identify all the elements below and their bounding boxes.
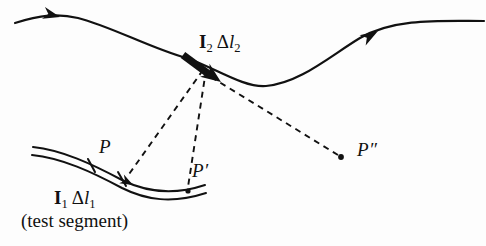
source-length-subscript: 2	[234, 41, 240, 55]
test-current-subscript: 1	[61, 197, 67, 211]
source-current-subscript: 2	[206, 41, 212, 55]
dot-p-double-prime	[338, 154, 344, 160]
label-source-segment: I2Δl2	[199, 32, 241, 54]
figure-container: I2Δl2 I1Δl1 (test segment) P P′ P″	[0, 0, 486, 246]
source-delta-symbol: Δ	[217, 31, 229, 52]
test-wire-upper-path	[33, 147, 205, 191]
label-point-p: P	[99, 137, 111, 156]
wire-arrowhead-right-icon	[359, 26, 381, 46]
label-test-segment: I1Δl1	[54, 188, 96, 210]
source-wire-path	[15, 15, 484, 86]
label-point-p-prime: P′	[192, 161, 209, 180]
test-length-subscript: 1	[89, 197, 95, 211]
label-test-segment-caption: (test segment)	[21, 211, 128, 230]
dashed-line-to-p-double-prime	[211, 77, 338, 155]
label-point-p-double-prime: P″	[357, 140, 377, 159]
test-delta-symbol: Δ	[72, 187, 84, 208]
dot-p-prime	[185, 188, 190, 193]
